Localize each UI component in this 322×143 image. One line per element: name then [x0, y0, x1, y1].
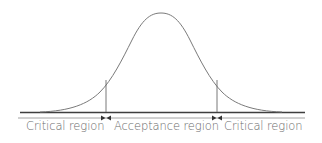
- right-critical-region-label: Critical region: [224, 119, 302, 133]
- arrowhead-left-icon: [107, 116, 112, 121]
- left-critical-region-label: Critical region: [26, 119, 104, 133]
- acceptance-region-label: Acceptance region: [114, 119, 219, 133]
- bell-curve: [40, 13, 282, 112]
